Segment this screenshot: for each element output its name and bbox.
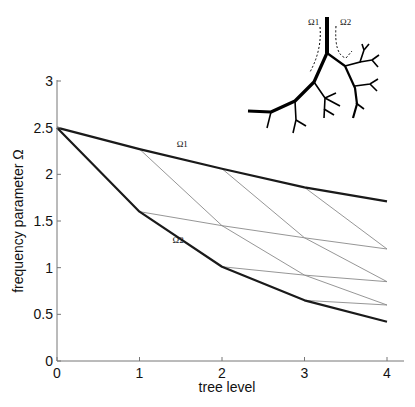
- inset-omega1-label: Ω1: [308, 17, 319, 27]
- y-tick-label: 0: [45, 353, 53, 369]
- series-line-ω1: [57, 128, 387, 202]
- x-tick-label: 4: [383, 365, 391, 381]
- plot-area: Ω1Ω2: [57, 128, 387, 322]
- annotation-label: Ω1: [177, 139, 188, 149]
- y-tick-label: 2.5: [34, 120, 54, 136]
- x-tick-label: 1: [136, 365, 144, 381]
- y-tick-label: 1: [45, 260, 53, 276]
- tree-inset-diagram: Ω1 Ω2: [248, 17, 379, 133]
- y-axis-label: frequency parameter Ω: [10, 149, 26, 293]
- annotation-label: Ω2: [173, 235, 184, 245]
- thin-line: [222, 169, 387, 282]
- thin-line: [140, 149, 388, 305]
- x-tick-label: 0: [53, 365, 61, 381]
- y-tick-label: 1.5: [34, 213, 54, 229]
- y-tick-label: 3: [45, 73, 53, 89]
- y-tick-label: 0.5: [34, 306, 54, 322]
- y-tick-label: 2: [45, 166, 53, 182]
- inset-omega2-label: Ω2: [340, 17, 351, 27]
- series-line-ω2: [57, 128, 387, 322]
- omega1-dashed-arrow: [310, 27, 320, 72]
- x-tick-label: 3: [301, 365, 309, 381]
- chart: Ω1Ω2 0123400.511.522.53tree levelfrequen…: [0, 0, 415, 407]
- tree-twigs: [267, 44, 379, 133]
- x-axis-label: tree level: [199, 379, 256, 395]
- omega2-dashed-arrow: [336, 26, 352, 58]
- axes: 0123400.511.522.53tree levelfrequency pa…: [10, 73, 404, 395]
- tree-right-branch: [327, 53, 357, 118]
